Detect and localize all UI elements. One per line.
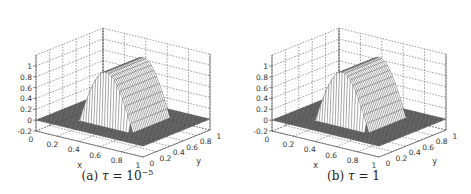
svg-text:1: 1 bbox=[453, 132, 458, 141]
svg-text:0.8: 0.8 bbox=[347, 156, 359, 165]
x-axis-label: x bbox=[313, 161, 318, 168]
svg-text:1: 1 bbox=[136, 161, 141, 168]
svg-text:0.8: 0.8 bbox=[256, 73, 268, 82]
svg-text:0: 0 bbox=[265, 135, 270, 144]
svg-text:0: 0 bbox=[150, 159, 155, 168]
svg-text:1: 1 bbox=[27, 62, 32, 71]
svg-text:0.2: 0.2 bbox=[46, 140, 58, 149]
caption-b-label: (b) bbox=[327, 169, 344, 183]
svg-text:0.4: 0.4 bbox=[409, 148, 421, 157]
svg-text:0.8: 0.8 bbox=[436, 137, 448, 146]
surface-plot-a: -0.200.20.40.60.8100.20.40.60.8100.20.40… bbox=[0, 0, 235, 168]
subplot-b: -0.200.20.40.60.8100.20.40.60.8100.20.40… bbox=[236, 0, 471, 194]
surface-mesh bbox=[272, 57, 446, 146]
caption-a: (a) τ = 10−5 bbox=[0, 168, 235, 183]
svg-text:0.8: 0.8 bbox=[200, 137, 212, 146]
surface-plot-b: -0.200.20.40.60.8100.20.40.60.8100.20.40… bbox=[236, 0, 471, 168]
svg-text:0.2: 0.2 bbox=[395, 154, 407, 163]
svg-text:0.2: 0.2 bbox=[20, 105, 32, 114]
svg-text:0.8: 0.8 bbox=[20, 73, 32, 82]
surface-mesh bbox=[36, 57, 210, 146]
svg-text:0.8: 0.8 bbox=[111, 156, 123, 165]
svg-text:0: 0 bbox=[29, 135, 34, 144]
svg-text:0.2: 0.2 bbox=[159, 154, 171, 163]
y-axis-label: y bbox=[432, 157, 437, 166]
svg-text:0: 0 bbox=[27, 116, 32, 125]
caption-a-exponent: −5 bbox=[142, 168, 154, 177]
svg-text:0.6: 0.6 bbox=[256, 84, 268, 93]
svg-text:0.6: 0.6 bbox=[89, 151, 101, 160]
caption-a-symbol: τ bbox=[102, 169, 109, 183]
svg-text:0.2: 0.2 bbox=[282, 140, 294, 149]
caption-b-base: 1 bbox=[372, 169, 380, 183]
subplot-a: -0.200.20.40.60.8100.20.40.60.8100.20.40… bbox=[0, 0, 235, 194]
svg-text:0.4: 0.4 bbox=[256, 94, 268, 103]
caption-b-eq: = bbox=[358, 169, 368, 183]
caption-a-eq: = bbox=[112, 169, 122, 183]
svg-text:0.4: 0.4 bbox=[304, 145, 316, 154]
svg-text:0.4: 0.4 bbox=[173, 148, 185, 157]
svg-text:1: 1 bbox=[263, 62, 268, 71]
svg-text:0: 0 bbox=[263, 116, 268, 125]
svg-text:0.6: 0.6 bbox=[325, 151, 337, 160]
svg-text:1: 1 bbox=[217, 132, 222, 141]
y-axis-label: y bbox=[196, 157, 201, 166]
caption-a-base: 10 bbox=[126, 169, 141, 183]
svg-text:0.4: 0.4 bbox=[20, 94, 32, 103]
x-axis-label: x bbox=[77, 161, 82, 168]
svg-text:0.2: 0.2 bbox=[256, 105, 268, 114]
caption-a-label: (a) bbox=[82, 169, 99, 183]
svg-text:0.6: 0.6 bbox=[186, 143, 198, 152]
svg-text:0.6: 0.6 bbox=[422, 143, 434, 152]
caption-b-symbol: τ bbox=[348, 169, 355, 183]
svg-text:0.6: 0.6 bbox=[20, 84, 32, 93]
svg-text:0.4: 0.4 bbox=[68, 145, 80, 154]
svg-text:1: 1 bbox=[372, 161, 377, 168]
svg-text:0: 0 bbox=[386, 159, 391, 168]
caption-b: (b) τ = 1 bbox=[236, 168, 471, 183]
